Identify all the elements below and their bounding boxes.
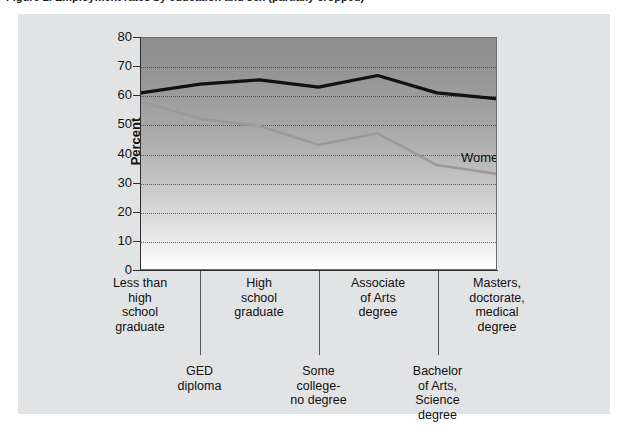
x-axis-label-3: Somecollege-no degree — [271, 364, 367, 408]
category-divider-3 — [319, 271, 320, 355]
y-tick-80 — [133, 37, 140, 38]
x-axis-label-line: GED — [152, 364, 248, 379]
x-axis-label-1: GEDdiploma — [152, 364, 248, 393]
x-axis-label-line: Bachelor — [390, 364, 486, 379]
x-axis-label-6: Masters,doctorate,medicaldegree — [449, 276, 545, 334]
x-axis-label-line: degree — [449, 320, 545, 335]
y-tick-30 — [133, 183, 140, 184]
x-axis-label-line: college- — [271, 379, 367, 394]
series-layer — [141, 38, 496, 269]
y-axis-label-30: 30 — [100, 175, 132, 190]
y-axis-label-40: 40 — [100, 146, 132, 161]
x-axis-label-line: graduate — [211, 305, 307, 320]
x-axis-label-0: Less thanhighschoolgraduate — [92, 276, 188, 334]
x-axis-label-line: school — [92, 305, 188, 320]
figure-panel: Men Women Percent 80706050403020100 Less… — [18, 14, 610, 414]
y-axis-label-20: 20 — [100, 204, 132, 219]
x-axis-label-line: degree — [330, 305, 426, 320]
x-axis-label-line: Some — [271, 364, 367, 379]
x-axis-label-line: High — [211, 276, 307, 291]
x-axis-label-line: school — [211, 291, 307, 306]
x-axis-label-line: of Arts — [330, 291, 426, 306]
y-axis-label-0: 0 — [100, 262, 132, 277]
figure-caption-cropped: Figure 2. Employment rates by education … — [0, 0, 626, 10]
series-line-women — [141, 102, 496, 174]
y-tick-0 — [133, 270, 140, 271]
x-axis-label-4: Associateof Artsdegree — [330, 276, 426, 320]
y-axis-label-10: 10 — [100, 233, 132, 248]
x-axis-label-line: Science — [390, 393, 486, 408]
plot-area: Men Women — [140, 37, 497, 270]
x-axis-label-line: Associate — [330, 276, 426, 291]
x-axis-label-line: no degree — [271, 393, 367, 408]
y-tick-10 — [133, 241, 140, 242]
y-tick-20 — [133, 212, 140, 213]
y-axis-label-70: 70 — [100, 58, 132, 73]
category-divider-1 — [200, 271, 201, 355]
category-divider-5 — [438, 271, 439, 355]
x-axis-label-line: degree — [390, 408, 486, 423]
y-tick-50 — [133, 124, 140, 125]
series-label-men: Men — [496, 78, 497, 93]
y-axis-title: Percent — [128, 97, 143, 187]
y-tick-70 — [133, 66, 140, 67]
series-line-men — [141, 76, 496, 99]
line-chart: Men Women Percent 80706050403020100 Less… — [18, 14, 610, 414]
x-axis-label-line: medical — [449, 305, 545, 320]
y-tick-40 — [133, 154, 140, 155]
y-tick-60 — [133, 95, 140, 96]
series-label-women: Women — [461, 150, 497, 165]
y-axis-labels: Percent 80706050403020100 — [92, 14, 132, 414]
x-axis-label-line: high — [92, 291, 188, 306]
figure-caption-text: Figure 2. Employment rates by education … — [6, 0, 364, 3]
y-axis-label-50: 50 — [100, 116, 132, 131]
x-axis-label-line: doctorate, — [449, 291, 545, 306]
x-axis-label-5: Bachelorof Arts,Sciencedegree — [390, 364, 486, 422]
x-axis-label-line: diploma — [152, 379, 248, 394]
y-axis-label-80: 80 — [100, 29, 132, 44]
x-axis-label-line: graduate — [92, 320, 188, 335]
y-axis-label-60: 60 — [100, 87, 132, 102]
x-axis-label-line: Masters, — [449, 276, 545, 291]
x-axis-label-line: Less than — [92, 276, 188, 291]
x-axis-label-line: of Arts, — [390, 379, 486, 394]
x-axis-label-2: Highschoolgraduate — [211, 276, 307, 320]
